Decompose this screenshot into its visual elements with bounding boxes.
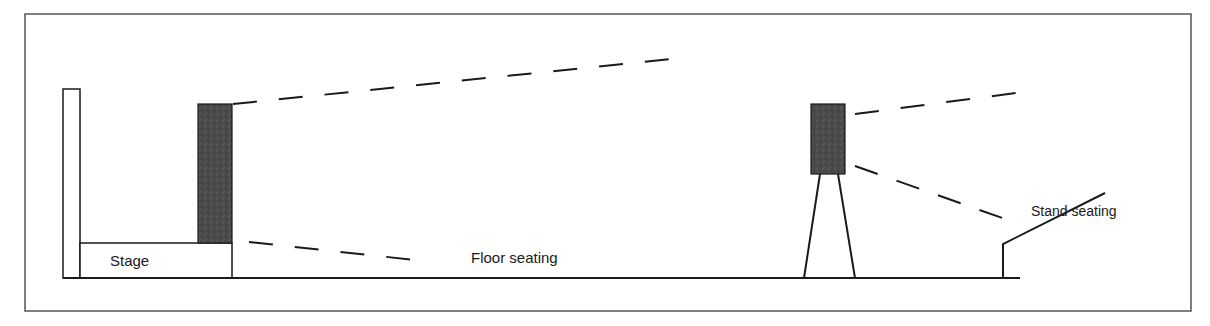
delay-speaker-upper-coverage — [855, 93, 1016, 114]
back-wall — [63, 89, 80, 278]
venue-diagram: Stage Floor seating Stand seating — [0, 0, 1210, 326]
delay-speaker — [811, 104, 845, 174]
main-speaker-lower-coverage — [249, 242, 415, 260]
stage-label: Stage — [110, 252, 149, 269]
floor-seating-label: Floor seating — [471, 249, 558, 266]
stage-platform — [80, 243, 232, 278]
delay-tower-right-leg — [838, 174, 855, 278]
main-speaker — [198, 104, 232, 243]
delay-speaker-lower-coverage — [855, 166, 1008, 220]
main-speaker-upper-coverage — [233, 58, 682, 104]
stand-seating-label: Stand seating — [1031, 203, 1117, 219]
delay-tower-left-leg — [804, 174, 820, 278]
